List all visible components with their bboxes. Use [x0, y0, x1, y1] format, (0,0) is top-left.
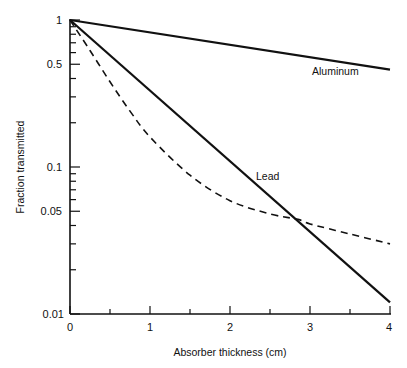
lead-label: Lead — [256, 170, 280, 182]
x-tick-label-0: 0 — [67, 321, 73, 333]
x-axis-title: Absorber thickness (cm) — [173, 346, 286, 358]
x-tick-label-1: 1 — [147, 321, 153, 333]
x-tick-label-2: 2 — [227, 321, 233, 333]
y-tick-label-0.1: 0.1 — [47, 161, 62, 173]
y-tick-label-0.01: 0.01 — [43, 308, 64, 320]
dashed-curve — [70, 20, 390, 244]
series-group — [70, 20, 390, 302]
y-tick-label-0.05: 0.05 — [41, 205, 62, 217]
y-ticks — [70, 20, 80, 314]
x-tick-label-4: 4 — [386, 321, 392, 333]
attenuation-chart: 1 0.5 0.1 0.05 0.01 0 1 2 3 4 Fraction t… — [0, 0, 407, 368]
y-tick-label-0.5: 0.5 — [47, 58, 62, 70]
aluminum-label: Aluminum — [312, 65, 359, 77]
x-ticks — [70, 306, 390, 314]
y-axis-title: Fraction transmitted — [14, 120, 26, 213]
x-tick-label-3: 3 — [307, 321, 313, 333]
y-tick-label-1: 1 — [56, 14, 62, 26]
